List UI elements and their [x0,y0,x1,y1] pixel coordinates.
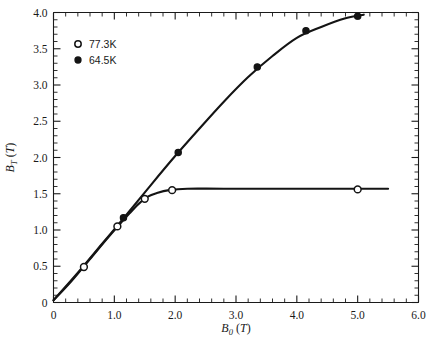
x-tick-label: 1.0 [107,309,122,321]
data-point-filled-64.5K [303,28,309,34]
x-tick-label: 3.0 [229,309,244,321]
legend-marker-filled [75,57,81,63]
x-tick-label: 4.0 [290,309,305,321]
y-tick-label: 1.0 [33,224,48,236]
data-point-open-77.3K [354,186,361,193]
legend-label-77.3K: 77.3K [89,38,116,50]
y-tick-label: 1.5 [33,188,48,200]
data-point-filled-64.5K [254,64,260,70]
chart-figure: 01.02.03.04.05.06.000.51.01.52.02.53.03.… [0,0,434,340]
y-tick-label: 3.0 [33,79,48,91]
data-point-open-77.3K [114,223,121,230]
y-tick-label: 4.0 [33,7,48,19]
legend-marker-open [75,41,81,47]
x-axis-label: B0 (T) [221,321,250,337]
x-tick-label: 5.0 [350,309,365,321]
plot-canvas: 01.02.03.04.05.06.000.51.01.52.02.53.03.… [0,0,434,340]
x-tick-label: 0 [51,309,57,321]
y-axis-label: BT (T) [3,143,19,173]
series-curve-77.3K [54,189,389,301]
y-tick-label: 2.5 [33,115,48,127]
data-point-filled-64.5K [120,215,126,221]
data-point-open-77.3K [141,195,148,202]
data-point-open-77.3K [81,264,88,271]
y-tick-label: 2.0 [33,152,48,164]
x-tick-label: 2.0 [168,309,183,321]
x-tick-label: 6.0 [411,309,426,321]
legend-label-64.5K: 64.5K [89,54,116,66]
data-point-filled-64.5K [355,13,361,19]
y-tick-label: 0.5 [33,260,48,272]
y-tick-label: 3.5 [33,43,48,55]
y-tick-label: 0 [42,297,48,309]
data-point-filled-64.5K [175,149,181,155]
data-point-open-77.3K [169,187,176,194]
